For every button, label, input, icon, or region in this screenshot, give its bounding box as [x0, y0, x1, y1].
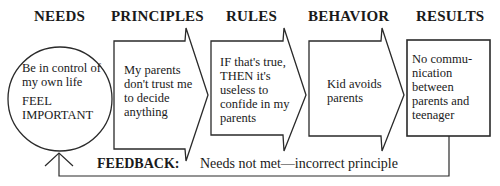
rules-line: THEN it's	[220, 69, 289, 83]
needs-line: my own life	[22, 75, 101, 89]
heading-behavior: BEHAVIOR	[308, 8, 389, 25]
rules-line: confide in my	[220, 97, 289, 111]
results-text: No commu- nication between parents and t…	[412, 52, 472, 122]
results-line: nication	[412, 66, 472, 80]
results-line: teenager	[412, 108, 472, 122]
principles-line: to decide	[124, 91, 192, 105]
heading-principles: PRINCIPLES	[111, 8, 204, 25]
needs-line: Be in control of	[22, 61, 101, 75]
heading-needs: NEEDS	[34, 8, 85, 25]
results-line: No commu-	[412, 52, 472, 66]
behavior-text: Kid avoids parents	[327, 77, 382, 105]
results-line: parents and	[412, 94, 472, 108]
rules-line: IF that's true,	[220, 55, 289, 69]
principles-line: My parents	[124, 63, 192, 77]
rules-line: parents	[220, 111, 289, 125]
results-line: between	[412, 80, 472, 94]
heading-rules: RULES	[226, 8, 277, 25]
rules-text: IF that's true, THEN it's useless to con…	[220, 55, 289, 125]
feedback-label: FEEDBACK:	[97, 156, 179, 172]
rules-line: useless to	[220, 83, 289, 97]
heading-results: RESULTS	[416, 8, 484, 25]
needs-text: Be in control of my own life FEEL IMPORT…	[22, 61, 101, 122]
principles-text: My parents don't trust me to decide anyt…	[124, 63, 192, 119]
needs-emphasis-line: FEEL	[22, 94, 101, 108]
feedback-text: Needs not met—incorrect principle	[200, 156, 398, 172]
principles-line: don't trust me	[124, 77, 192, 91]
needs-emphasis-line: IMPORTANT	[22, 108, 101, 122]
principles-line: anything	[124, 105, 192, 119]
behavior-line: parents	[327, 91, 382, 105]
behavior-line: Kid avoids	[327, 77, 382, 91]
